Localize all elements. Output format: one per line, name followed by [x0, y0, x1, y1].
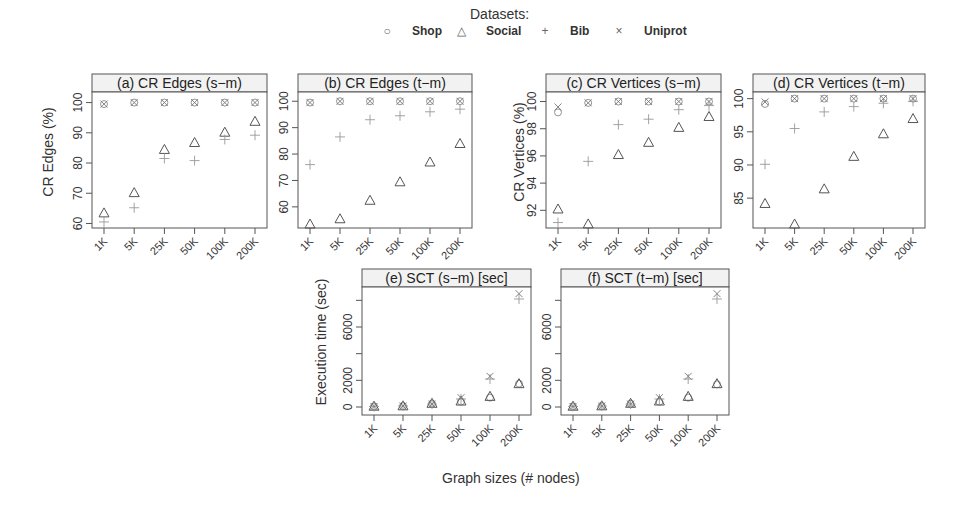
x-tick-label: 25K	[353, 234, 376, 257]
x-tick-label: 50K	[383, 234, 406, 257]
x-tick-label: 1K	[545, 234, 563, 252]
y-tick-label: 96	[525, 149, 539, 163]
x-tick-label: 100K	[469, 421, 496, 448]
y-tick-label: 100	[277, 91, 291, 111]
y-tick-label: 70	[277, 173, 291, 187]
chart-panel: 607080901001K5K25K50K100K200K	[277, 74, 472, 262]
y-tick-label: 80	[277, 147, 291, 161]
y-tick-label: 80	[71, 156, 85, 170]
x-tick-label: 25K	[807, 234, 830, 257]
x-tick-label: 1K	[361, 421, 379, 439]
y-tick-label: 98	[525, 122, 539, 136]
y-tick-label: 100	[732, 88, 746, 108]
x-tick-label: 25K	[147, 234, 170, 257]
y-tick-label: 2000	[540, 367, 554, 394]
y-tick-label: 92	[525, 203, 539, 217]
y-tick-label: 100	[525, 91, 539, 111]
y-tick-label: 100	[71, 92, 85, 112]
x-tick-label: 25K	[614, 421, 637, 444]
chart-panel: 8590951001K5K25K50K100K200K	[732, 74, 925, 262]
x-tick-label: 200K	[498, 421, 525, 448]
panel-title-e: (e) SCT (s−m) [sec]	[362, 269, 531, 287]
x-tick-label: 100K	[667, 421, 694, 448]
x-tick-label: 50K	[642, 421, 665, 444]
panel-title-a: (a) CR Edges (s−m)	[92, 74, 267, 92]
x-tick-label: 1K	[91, 234, 109, 252]
x-tick-label: 100K	[204, 234, 231, 261]
y-tick-label: 6000	[540, 313, 554, 340]
y-tick-label: 2000	[341, 367, 355, 394]
y-tick-label: 90	[71, 126, 85, 140]
x-tick-label: 5K	[576, 234, 594, 252]
y-tick-label: 70	[71, 186, 85, 200]
chart-panel: 929496981001K5K25K50K100K200K	[525, 74, 721, 262]
x-tick-label: 200K	[439, 234, 466, 261]
x-tick-label: 200K	[892, 234, 919, 261]
x-tick-label: 1K	[297, 234, 315, 252]
x-tick-label: 100K	[658, 234, 685, 261]
chart-panel: 607080901001K5K25K50K100K200K	[71, 74, 267, 262]
x-tick-label: 25K	[601, 234, 624, 257]
y-tick-label: 0	[540, 403, 554, 410]
x-tick-label: 200K	[234, 234, 261, 261]
y-tick-label: 0	[341, 403, 355, 410]
panel-title-b: (b) CR Edges (t−m)	[298, 74, 472, 92]
panel-title-d: (d) CR Vertices (t−m)	[753, 74, 925, 92]
y-tick-label: 90	[732, 158, 746, 172]
panel-title-c: (c) CR Vertices (s−m)	[546, 74, 721, 92]
chart-panel: 0200060001K5K25K50K100K200K	[540, 269, 729, 449]
y-tick-label: 60	[277, 200, 291, 214]
y-tick-label: 6000	[341, 313, 355, 340]
x-tick-label: 5K	[327, 234, 345, 252]
x-tick-label: 200K	[688, 234, 715, 261]
x-tick-label: 1K	[752, 234, 770, 252]
x-axis-label: Graph sizes (# nodes)	[442, 470, 580, 486]
y-tick-label: 60	[71, 216, 85, 230]
x-tick-label: 5K	[589, 421, 607, 439]
y-tick-label: 90	[277, 121, 291, 135]
chart-panel: 0200060001K5K25K50K100K200K	[341, 269, 531, 449]
x-tick-label: 5K	[122, 234, 140, 252]
y-tick-label: 85	[732, 191, 746, 205]
x-tick-label: 5K	[390, 421, 408, 439]
x-tick-label: 1K	[560, 421, 578, 439]
x-tick-label: 100K	[862, 234, 889, 261]
x-tick-label: 5K	[782, 234, 800, 252]
x-tick-label: 100K	[409, 234, 436, 261]
x-tick-label: 50K	[837, 234, 860, 257]
x-tick-label: 50K	[444, 421, 467, 444]
y-tick-label: 94	[525, 176, 539, 190]
y-tick-label: 95	[732, 125, 746, 139]
x-tick-label: 50K	[178, 234, 201, 257]
x-tick-label: 50K	[632, 234, 655, 257]
x-tick-label: 25K	[415, 421, 438, 444]
x-tick-label: 200K	[696, 421, 723, 448]
panel-title-f: (f) SCT (t−m) [sec]	[561, 269, 729, 287]
